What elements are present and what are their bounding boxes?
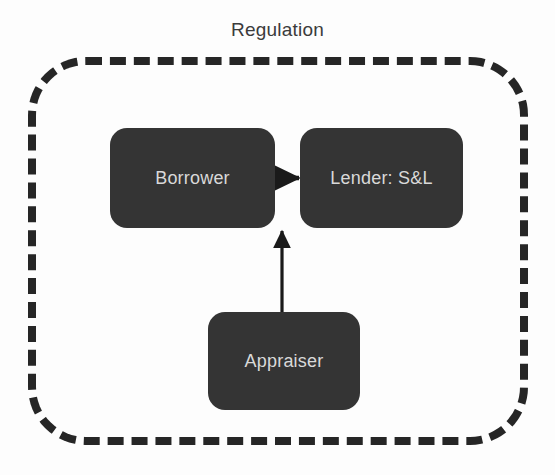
node-appraiser[interactable]: Appraiser	[208, 312, 360, 410]
node-borrower-label: Borrower	[155, 168, 230, 189]
node-appraiser-label: Appraiser	[245, 351, 324, 372]
node-lender-label: Lender: S&L	[330, 168, 432, 189]
node-lender[interactable]: Lender: S&L	[300, 128, 463, 228]
node-borrower[interactable]: Borrower	[110, 128, 275, 228]
diagram-canvas: Regulation Borrower Lender: S&L Appraise…	[0, 0, 555, 475]
page-title: Regulation	[0, 19, 555, 41]
